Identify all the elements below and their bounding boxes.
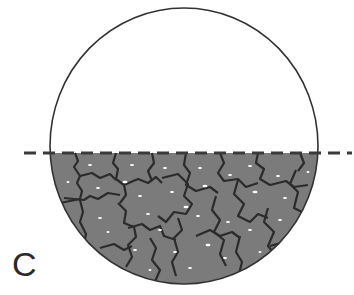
panel-label: C <box>12 247 37 281</box>
diagram-figure <box>0 0 354 295</box>
cellular-fill-region <box>40 153 330 293</box>
